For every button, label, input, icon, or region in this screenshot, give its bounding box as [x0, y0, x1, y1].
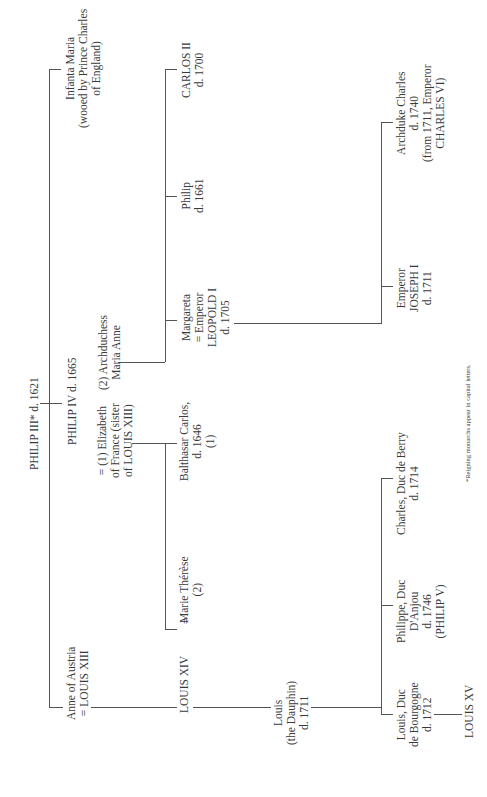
- node-bourgogne: Louis, Duc de Bourgogne d. 1712: [395, 682, 434, 747]
- philip3-children-bar: [49, 69, 50, 708]
- node-joseph1: Emperor JOSEPH I d. 1711: [395, 264, 434, 312]
- node-archduke-charles: Archduke Charles d. 1740 (from 1711, Emp…: [395, 64, 447, 162]
- maria-anne-children-line: [118, 362, 165, 363]
- elizabeth-children-bar: [165, 443, 166, 629]
- margareta-children-line: [234, 323, 382, 324]
- node-carlos2: CARLOS II d. 1700: [180, 42, 206, 98]
- margareta-children-bar: [381, 122, 382, 323]
- node-balthasar-carlos: Balthasar Carlos, d. 1646 (1): [178, 402, 217, 481]
- dauphin-children-bar: [381, 478, 382, 714]
- node-louis14: LOUIS XIV: [178, 656, 191, 713]
- node-louis15: LOUIS XV: [463, 685, 476, 738]
- infanta-connector: [49, 69, 61, 70]
- anjou-connector: [381, 605, 393, 606]
- node-philip-1661: Philip d. 1661: [180, 179, 206, 214]
- philip-1661-connector: [165, 196, 177, 197]
- anne-louis14-line: [91, 707, 177, 708]
- node-margareta: Margareta = Emperor LEOPOLD I d. 1705: [180, 288, 232, 347]
- node-dauphin: Louis (the Dauphin) d. 1711: [272, 681, 311, 745]
- dauphin-children-line: [311, 707, 381, 708]
- node-maria-anne: (2) Archduchess Maria Anne: [97, 315, 123, 390]
- node-elizabeth: = (1) Elizabeth of France (sister of LOU…: [96, 403, 135, 478]
- margareta-connector: [165, 320, 177, 321]
- bourgogne-louis15-line: [434, 714, 462, 715]
- node-marie-therese: Marie Thérèse (2): [178, 556, 204, 623]
- joseph-connector: [381, 286, 393, 287]
- archduke-connector: [381, 122, 393, 123]
- berry-connector: [381, 478, 393, 479]
- anne-connector: [49, 707, 63, 708]
- carlos-connector: [165, 69, 177, 70]
- node-infanta-maria: Infanta Maria (wooed by Prince Charles o…: [64, 9, 103, 128]
- node-philip4: PHILIP IV d. 1665: [66, 357, 79, 445]
- bourgogne-connector: [381, 714, 393, 715]
- philip3-philip4-connector: [40, 403, 62, 404]
- footnote: *Reigning monarchs appear in capital let…: [464, 364, 472, 482]
- node-berry: Charles, Duc de Berry d. 1714: [395, 432, 421, 535]
- maria-anne-children-bar: [165, 69, 166, 362]
- louis14-dauphin-line: [193, 707, 271, 708]
- balthasar-connector: [165, 443, 177, 444]
- node-anjou: Philippe, Duc D'Anjou d. 1746 (PHILIP V): [395, 580, 447, 643]
- node-philip3: PHILIP III* d. 1621: [28, 377, 41, 470]
- marie-therese-connector: [165, 629, 177, 630]
- node-anne-of-austria: Anne of Austria = LOUIS XIII: [65, 647, 91, 720]
